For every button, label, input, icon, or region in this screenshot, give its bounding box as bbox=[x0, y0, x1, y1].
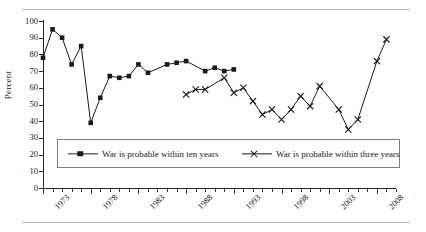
x-tick-mark-major bbox=[377, 189, 378, 194]
legend-entry-three-years: War is probable within three years bbox=[242, 140, 399, 167]
y-tick-mark bbox=[39, 138, 43, 139]
x-tick-mark-minor bbox=[148, 189, 149, 192]
y-tick-mark bbox=[39, 121, 43, 122]
x-marker-icon bbox=[242, 149, 272, 159]
x-tick-label: 2008 bbox=[387, 193, 405, 211]
data-point-marker bbox=[259, 111, 265, 117]
y-tick-label: 40 bbox=[12, 117, 38, 126]
data-point-marker bbox=[88, 121, 93, 126]
y-tick-mark bbox=[39, 171, 43, 172]
data-point-marker bbox=[278, 116, 284, 122]
x-tick-mark-minor bbox=[262, 189, 263, 192]
x-tick-mark-minor bbox=[291, 189, 292, 192]
data-point-marker bbox=[297, 93, 303, 99]
x-tick-mark-minor bbox=[253, 189, 254, 192]
y-tick-label: 30 bbox=[12, 133, 38, 142]
x-tick-label: 1993 bbox=[244, 193, 262, 211]
x-tick-mark-minor bbox=[72, 189, 73, 192]
data-point-marker bbox=[231, 90, 237, 96]
x-tick-mark-minor bbox=[301, 189, 302, 192]
legend-entry-ten-years: War is probable within ten years bbox=[68, 140, 219, 167]
y-tick-label: 50 bbox=[12, 100, 38, 109]
data-point-marker bbox=[221, 75, 227, 81]
y-tick-label: 60 bbox=[12, 83, 38, 92]
data-point-marker bbox=[355, 116, 361, 122]
x-tick-mark-minor bbox=[205, 189, 206, 192]
data-point-marker bbox=[183, 91, 189, 97]
data-point-marker bbox=[107, 74, 112, 79]
x-tick-mark-minor bbox=[367, 189, 368, 192]
series-1 bbox=[41, 27, 236, 125]
y-tick-label: 90 bbox=[12, 33, 38, 42]
x-tick-mark-major bbox=[138, 189, 139, 194]
bottom-divider bbox=[22, 222, 410, 223]
x-tick-label: 1983 bbox=[148, 193, 166, 211]
data-point-marker bbox=[383, 36, 389, 42]
chart-figure: Percent 0102030405060708090100 197319781… bbox=[0, 0, 426, 232]
top-divider bbox=[22, 9, 410, 10]
data-point-marker bbox=[174, 60, 179, 65]
y-tick-label: 70 bbox=[12, 67, 38, 76]
x-tick-label: 2003 bbox=[339, 193, 357, 211]
x-tick-mark-minor bbox=[310, 189, 311, 192]
data-point-marker bbox=[345, 126, 351, 132]
x-tick-label: 1988 bbox=[196, 193, 214, 211]
data-point-marker bbox=[202, 86, 208, 92]
data-point-marker bbox=[60, 35, 65, 40]
x-tick-mark-major bbox=[282, 189, 283, 194]
data-point-marker bbox=[79, 44, 84, 49]
x-tick-label: 1998 bbox=[292, 193, 310, 211]
data-point-marker bbox=[250, 98, 256, 104]
y-tick-label: 0 bbox=[12, 184, 38, 193]
x-tick-mark-minor bbox=[81, 189, 82, 192]
data-point-marker bbox=[240, 85, 246, 91]
legend-label-ten-years: War is probable within ten years bbox=[102, 149, 219, 159]
x-tick-mark-minor bbox=[110, 189, 111, 192]
x-tick-mark-minor bbox=[167, 189, 168, 192]
data-point-marker bbox=[222, 69, 227, 74]
data-point-marker bbox=[69, 62, 74, 67]
x-tick-mark-minor bbox=[157, 189, 158, 192]
data-point-marker bbox=[336, 106, 342, 112]
x-tick-mark-minor bbox=[272, 189, 273, 192]
data-point-marker bbox=[184, 59, 189, 64]
x-tick-mark-minor bbox=[224, 189, 225, 192]
x-tick-mark-minor bbox=[348, 189, 349, 192]
x-tick-mark-minor bbox=[100, 189, 101, 192]
x-tick-mark-minor bbox=[320, 189, 321, 192]
x-tick-mark-minor bbox=[196, 189, 197, 192]
series-2 bbox=[183, 36, 390, 132]
data-point-marker bbox=[165, 62, 170, 67]
data-point-marker bbox=[203, 69, 208, 74]
y-tick-mark bbox=[39, 88, 43, 89]
data-point-marker bbox=[117, 75, 122, 80]
y-tick-mark bbox=[39, 38, 43, 39]
x-tick-label: 1973 bbox=[53, 193, 71, 211]
x-tick-mark-major bbox=[43, 189, 44, 194]
y-tick-mark bbox=[39, 105, 43, 106]
data-point-marker bbox=[146, 70, 151, 75]
x-tick-mark-minor bbox=[215, 189, 216, 192]
x-tick-mark-minor bbox=[53, 189, 54, 192]
data-point-marker bbox=[98, 96, 103, 101]
y-tick-label: 100 bbox=[12, 17, 38, 26]
y-tick-mark bbox=[39, 71, 43, 72]
data-point-marker bbox=[212, 65, 217, 70]
y-axis-line bbox=[43, 20, 44, 189]
y-tick-mark bbox=[39, 21, 43, 22]
square-marker-icon bbox=[68, 149, 98, 159]
y-tick-label: 20 bbox=[12, 150, 38, 159]
chart-legend: War is probable within ten years War is … bbox=[57, 139, 400, 168]
data-point-marker bbox=[136, 62, 141, 67]
x-tick-mark-minor bbox=[129, 189, 130, 192]
data-point-marker bbox=[374, 58, 380, 64]
x-tick-mark-minor bbox=[62, 189, 63, 192]
series-line bbox=[43, 29, 234, 123]
data-point-marker bbox=[193, 86, 199, 92]
x-tick-mark-minor bbox=[119, 189, 120, 192]
x-tick-mark-major bbox=[186, 189, 187, 194]
series-line bbox=[186, 39, 386, 129]
data-point-marker bbox=[269, 106, 275, 112]
legend-label-three-years: War is probable within three years bbox=[276, 149, 399, 159]
x-tick-mark-minor bbox=[243, 189, 244, 192]
